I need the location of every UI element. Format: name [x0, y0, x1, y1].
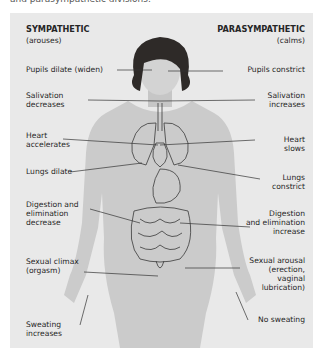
parasympathetic-title: PARASYMPATHETIC	[217, 25, 305, 34]
sympathetic-title: SYMPATHETIC	[26, 25, 90, 34]
symp-salivation-label: Salivationdecreases	[26, 91, 65, 109]
symp-digestion-label: Digestion andeliminationdecrease	[26, 200, 79, 227]
symp-sweating-label: Sweatingincreases	[26, 320, 62, 338]
para-heart-label: Heartslows	[284, 135, 305, 153]
para-salivation-label: Salivationincreases	[268, 91, 305, 109]
symp-heart-label: Heartaccelerates	[26, 131, 70, 149]
sympathetic-subtitle: (arouses)	[26, 36, 62, 45]
body-silhouette	[64, 85, 256, 348]
diagram-panel: SYMPATHETIC (arouses) PARASYMPATHETIC (c…	[10, 13, 313, 348]
para-sweating-label: No sweating	[258, 315, 305, 324]
para-sexual-label: Sexual arousal(erection,vaginallubricati…	[249, 256, 305, 292]
figure-caption: and parasympathetic divisions.	[10, 0, 151, 4]
para-digestion-label: Digestionand eliminationincrease	[246, 209, 305, 236]
symp-lungs-label: Lungs dilate	[26, 167, 72, 176]
para-pupils-label: Pupils constrict	[247, 65, 305, 74]
parasympathetic-subtitle: (calms)	[277, 36, 305, 45]
symp-sexual-label: Sexual climax(orgasm)	[26, 257, 79, 275]
human-figure-illustration	[10, 13, 313, 348]
symp-pupils-label: Pupils dilate (widen)	[26, 65, 103, 74]
para-lungs-label: Lungsconstrict	[272, 173, 305, 191]
